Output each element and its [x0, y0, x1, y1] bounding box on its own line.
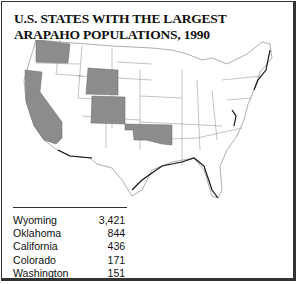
state-name: California	[13, 240, 58, 253]
population-value: 436	[108, 240, 126, 253]
state-colorado	[91, 96, 125, 124]
table-row: Washington151	[13, 267, 125, 280]
figure-title: U.S. STATES WITH THE LARGEST ARAPAHO POP…	[14, 11, 274, 43]
state-washington	[36, 40, 70, 63]
table-row: Colorado171	[13, 254, 125, 267]
state-wyoming	[86, 68, 118, 95]
state-name: Wyoming	[13, 214, 57, 227]
state-name: Washington	[13, 267, 68, 280]
state-name: Colorado	[13, 254, 56, 267]
population-value: 844	[108, 227, 126, 240]
population-value: 3,421	[99, 214, 125, 227]
population-value: 151	[108, 267, 126, 280]
state-name: Oklahoma	[13, 227, 61, 240]
table-row: Wyoming3,421	[13, 214, 125, 227]
table-row: California436	[13, 240, 125, 253]
table-divider	[13, 207, 127, 208]
population-table: Wyoming3,421 Oklahoma844 California436 C…	[13, 214, 125, 280]
table-row: Oklahoma844	[13, 227, 125, 240]
us-map	[22, 40, 284, 208]
population-value: 171	[108, 254, 126, 267]
